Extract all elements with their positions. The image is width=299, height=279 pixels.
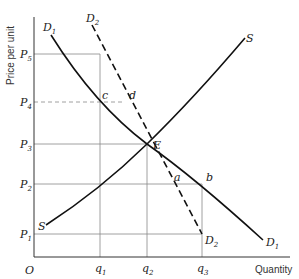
price-label-p5: P5 (19, 48, 32, 63)
curve-label-s-top: S (246, 32, 254, 45)
price-label-p4: P4 (19, 96, 32, 111)
point-label-e: E (152, 139, 161, 152)
quantity-label-q2: q2 (142, 262, 154, 277)
curve-label-d1-top: D1 (42, 21, 56, 36)
y-axis-label: Price per unit (5, 26, 16, 85)
price-label-p2: P2 (19, 178, 32, 193)
demand-curve-d1 (51, 35, 263, 240)
axes (34, 17, 290, 257)
supply-demand-diagram: Price per unit Quantity O P5 P4 P3 P2 P1… (0, 0, 299, 279)
origin-label: O (25, 264, 34, 277)
x-axis-label: Quantity (255, 264, 292, 275)
guide-lines (34, 54, 202, 257)
point-label-c: c (102, 89, 108, 102)
curve-label-d1-bottom: D1 (265, 236, 279, 251)
curve-label-d2-bottom: D2 (204, 234, 219, 249)
point-label-d: d (129, 89, 136, 102)
price-label-p1: P1 (19, 228, 32, 243)
point-label-a: a (174, 171, 181, 184)
quantity-label-q3: q3 (197, 262, 209, 277)
point-label-b: b (206, 171, 213, 184)
price-label-p3: P3 (19, 138, 32, 153)
curve-label-s-bottom: S (38, 220, 46, 233)
quantity-label-q1: q1 (95, 262, 107, 277)
curve-label-d2-top: D2 (85, 12, 100, 27)
